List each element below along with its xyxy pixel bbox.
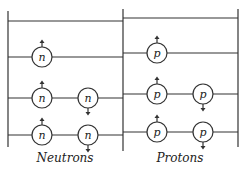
- neutron-spin-down: n: [78, 88, 98, 116]
- proton-spin-up: p: [147, 115, 167, 143]
- neutron-symbol: n: [38, 51, 45, 64]
- neutron-symbol: n: [84, 129, 91, 142]
- neutron-symbol: n: [84, 92, 91, 105]
- arrow-up-icon: [155, 77, 160, 81]
- proton-spin-down: p: [193, 122, 213, 150]
- proton-spin-up: p: [147, 36, 167, 64]
- arrow-down-icon: [201, 146, 206, 150]
- proton-symbol: p: [199, 88, 206, 101]
- arrow-down-icon: [201, 108, 206, 112]
- proton-symbol: p: [153, 47, 160, 60]
- neutron-spin-up: n: [32, 40, 52, 68]
- arrow-up-icon: [40, 118, 45, 122]
- proton-spin-down: p: [193, 84, 213, 112]
- arrow-down-icon: [86, 112, 91, 116]
- neutron-spin-up: n: [32, 81, 52, 109]
- arrow-up-icon: [40, 40, 45, 44]
- neutrons-label: Neutrons: [36, 151, 94, 165]
- proton-symbol: p: [153, 126, 160, 139]
- neutron-symbol: n: [38, 129, 45, 142]
- arrow-up-icon: [155, 36, 160, 40]
- arrow-up-icon: [40, 81, 45, 85]
- protons-label: Protons: [156, 151, 204, 165]
- neutron-symbol: n: [38, 92, 45, 105]
- neutron-spin-up: n: [32, 118, 52, 146]
- shell-model-diagram: n n n n n: [0, 0, 245, 169]
- arrow-up-icon: [155, 115, 160, 119]
- proton-symbol: p: [153, 88, 160, 101]
- proton-spin-up: p: [147, 77, 167, 105]
- proton-symbol: p: [199, 126, 206, 139]
- neutron-spin-down: n: [78, 125, 98, 153]
